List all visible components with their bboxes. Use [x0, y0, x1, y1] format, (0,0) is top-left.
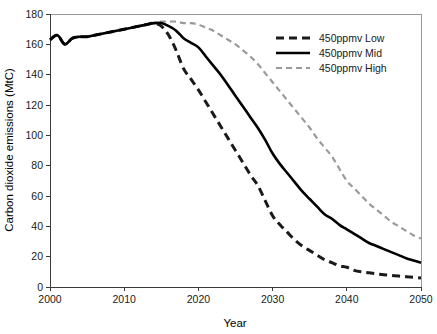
y-tick-label: 100: [25, 129, 43, 141]
legend-label: 450ppmv Low: [319, 32, 385, 44]
legend-label: 450ppmv Mid: [319, 47, 382, 59]
x-tick-label: 2030: [261, 293, 285, 305]
y-tick-label: 80: [31, 159, 43, 171]
x-tick-label: 2040: [335, 293, 359, 305]
y-tick-label: 160: [25, 38, 43, 50]
x-tick-label: 2000: [38, 293, 62, 305]
x-tick-label: 2020: [187, 293, 211, 305]
x-axis-title: Year: [223, 317, 246, 329]
y-tick-label: 120: [25, 99, 43, 111]
y-axis-title: Carbon dioxide emissions (MtC): [3, 68, 15, 232]
y-tick-label: 40: [31, 220, 43, 232]
chart-legend: 450ppmv Low450ppmv Mid450ppmv High: [276, 32, 387, 74]
y-tick-label: 180: [25, 8, 43, 20]
y-tick-label: 20: [31, 250, 43, 262]
data-series-group: [50, 21, 421, 277]
x-axis-ticks: 200020102020203020402050: [38, 287, 433, 305]
chart-svg: 020406080100120140160180 200020102020203…: [0, 0, 437, 334]
y-tick-label: 140: [25, 68, 43, 80]
y-tick-label: 0: [37, 281, 43, 293]
x-tick-label: 2010: [113, 293, 137, 305]
x-tick-label: 2050: [409, 293, 433, 305]
chart-container: 020406080100120140160180 200020102020203…: [0, 0, 437, 334]
legend-label: 450ppmv High: [319, 62, 387, 74]
y-tick-label: 60: [31, 190, 43, 202]
y-axis-ticks: 020406080100120140160180: [25, 8, 50, 293]
